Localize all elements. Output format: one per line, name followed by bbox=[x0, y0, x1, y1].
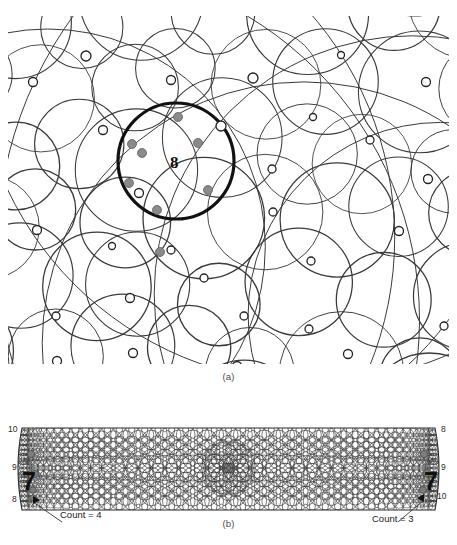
lattice-vertex-marker bbox=[354, 494, 357, 497]
packing-circle bbox=[8, 122, 60, 210]
lattice-circle-offset bbox=[248, 492, 267, 511]
lattice-vertex-marker bbox=[39, 458, 42, 461]
lattice-circle-offset bbox=[59, 484, 74, 499]
rosette-center-point bbox=[227, 466, 231, 470]
right-counted-marker bbox=[420, 450, 427, 457]
lattice-vertex-marker bbox=[52, 439, 55, 442]
lattice-vertex-marker bbox=[39, 485, 42, 488]
lattice-vertex-marker bbox=[429, 458, 431, 460]
lattice-vertex-marker bbox=[23, 439, 25, 441]
lattice-vertex-marker bbox=[304, 448, 308, 452]
lattice-circle bbox=[309, 440, 328, 459]
open-point-marker bbox=[344, 350, 353, 359]
lattice-circle bbox=[309, 430, 328, 449]
lattice-vertex-marker bbox=[163, 484, 167, 488]
lattice-circle bbox=[309, 476, 328, 495]
lattice-circle-offset bbox=[77, 493, 93, 509]
lattice-circle bbox=[116, 487, 135, 506]
packing-circle bbox=[348, 16, 441, 50]
lattice-circle bbox=[368, 422, 385, 439]
lattice-vertex-marker bbox=[433, 439, 435, 441]
lattice-vertex-marker bbox=[429, 429, 431, 431]
open-point-marker bbox=[248, 73, 258, 83]
lattice-circle bbox=[54, 442, 70, 458]
lattice-circle bbox=[116, 450, 135, 469]
panel-b-left-count-annotation: Count = 4 bbox=[60, 509, 101, 520]
lattice-vertex-marker bbox=[330, 428, 334, 432]
lattice-vertex-marker bbox=[191, 438, 195, 442]
packing-circle bbox=[336, 252, 431, 347]
lattice-vertex-marker bbox=[421, 476, 424, 479]
panel-b-left-label-8: 8 bbox=[12, 494, 17, 504]
lattice-vertex-marker bbox=[409, 495, 412, 498]
packing-circle bbox=[41, 16, 123, 68]
open-point-marker bbox=[33, 226, 42, 235]
lattice-circle bbox=[387, 432, 403, 448]
panel-b-left-label-9: 9 bbox=[12, 462, 17, 472]
packing-circle bbox=[280, 163, 394, 277]
lattice-vertex-marker bbox=[375, 448, 378, 451]
filled-point-marker bbox=[125, 179, 134, 188]
lattice-circle bbox=[335, 431, 353, 449]
lattice-vertex-marker bbox=[219, 475, 223, 479]
packing-arc bbox=[42, 82, 449, 364]
open-point-marker bbox=[167, 76, 176, 85]
lattice-vertex-marker bbox=[112, 466, 115, 469]
open-point-marker bbox=[338, 52, 345, 59]
lattice-circle-offset bbox=[88, 437, 105, 454]
open-point-marker bbox=[305, 325, 313, 333]
lattice-vertex-marker bbox=[136, 504, 140, 508]
lattice-vertex-marker bbox=[394, 457, 397, 460]
open-point-marker bbox=[126, 294, 135, 303]
open-point-marker bbox=[167, 246, 175, 254]
lattice-vertex-marker bbox=[409, 439, 412, 442]
lattice-circle bbox=[54, 451, 70, 467]
lattice-circle bbox=[129, 476, 148, 495]
lattice-circle-offset bbox=[162, 492, 181, 511]
lattice-circle-offset bbox=[51, 447, 65, 461]
lattice-circle-offset bbox=[374, 427, 390, 443]
lattice-circle bbox=[322, 468, 341, 487]
lattice-circle bbox=[72, 488, 89, 505]
left-bracket-glyph: 7 bbox=[22, 467, 36, 495]
filled-point-marker bbox=[128, 140, 137, 149]
open-point-marker bbox=[395, 227, 404, 236]
lattice-circle-offset bbox=[353, 473, 370, 490]
lattice-vertex-marker bbox=[191, 494, 195, 498]
left-counted-marker bbox=[27, 450, 34, 457]
lattice-circle-offset bbox=[77, 437, 93, 453]
lattice-circle bbox=[72, 432, 89, 449]
packing-circle bbox=[367, 353, 449, 364]
lattice-vertex-marker bbox=[433, 495, 435, 497]
lattice-vertex-marker bbox=[89, 484, 92, 487]
open-point-marker bbox=[52, 312, 60, 320]
lattice-vertex-marker bbox=[136, 448, 140, 452]
packing-circle bbox=[257, 104, 357, 204]
lattice-circle bbox=[72, 422, 89, 439]
lattice-vertex-marker bbox=[394, 428, 397, 431]
packing-circle bbox=[8, 16, 71, 79]
lattice-vertex-marker bbox=[89, 428, 92, 431]
filled-point-marker bbox=[204, 186, 213, 195]
right-bracket-glyph: 7 bbox=[424, 467, 438, 495]
highlight-count-label: 8 bbox=[170, 153, 179, 172]
lattice-circle-offset bbox=[383, 494, 398, 509]
lattice-vertex-marker bbox=[219, 448, 223, 452]
lattice-circle-offset bbox=[233, 492, 252, 511]
open-point-marker bbox=[268, 165, 276, 173]
lattice-vertex-marker bbox=[330, 457, 334, 461]
packing-arc bbox=[154, 36, 449, 364]
lattice-vertex-marker bbox=[136, 475, 140, 479]
lattice-vertex-marker bbox=[354, 466, 357, 469]
filled-point-marker bbox=[194, 139, 203, 148]
lattice-circle bbox=[129, 449, 148, 468]
lattice-vertex-marker bbox=[112, 494, 115, 497]
packing-circle bbox=[136, 28, 216, 108]
packing-circle bbox=[247, 16, 369, 74]
panel-b-canvas: 77 bbox=[0, 410, 457, 525]
lattice-circle bbox=[387, 442, 403, 458]
filled-point-marker bbox=[174, 113, 183, 122]
open-point-marker bbox=[200, 274, 208, 282]
panel-a-caption: (a) bbox=[0, 371, 457, 382]
lattice-circle bbox=[309, 420, 328, 439]
